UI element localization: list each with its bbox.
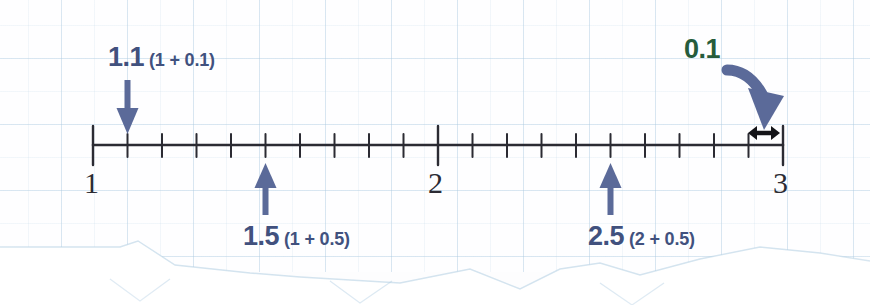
callout-1-1: 1.1(1 + 0.1) xyxy=(108,44,215,71)
callout-1-5-value: 1.5 xyxy=(243,221,279,251)
graph-paper-background xyxy=(0,0,870,272)
callout-2-5-value: 2.5 xyxy=(588,221,624,251)
number-line-figure: 1 2 3 1.1(1 + 0.1) 1.5(1 + 0.5) 2.5(2 + … xyxy=(0,0,870,305)
axis-label-3: 3 xyxy=(773,168,788,198)
axis-label-1: 1 xyxy=(84,168,99,198)
callout-1-1-value: 1.1 xyxy=(108,42,144,72)
axis-label-2: 2 xyxy=(428,168,443,198)
callout-1-5-expression: (1 + 0.5) xyxy=(284,229,350,249)
callout-1-1-expression: (1 + 0.1) xyxy=(149,50,215,70)
callout-2-5-expression: (2 + 0.5) xyxy=(629,229,695,249)
callout-2-5: 2.5(2 + 0.5) xyxy=(588,223,695,250)
callout-0-1: 0.1 xyxy=(684,36,720,63)
callout-1-5: 1.5(1 + 0.5) xyxy=(243,223,350,250)
